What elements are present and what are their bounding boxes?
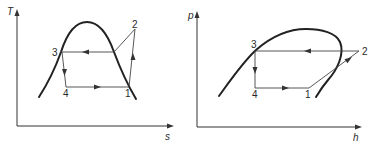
ph-arrow-down-icon <box>253 67 258 74</box>
ts-arrow-right-icon <box>94 85 101 90</box>
ts-point-2-label: 2 <box>132 19 138 30</box>
ph-point-3-label: 3 <box>251 39 257 50</box>
ts-arrow-up-icon <box>131 53 136 60</box>
diagram-canvas: T s 3 2 1 4 p h <box>0 0 368 143</box>
ts-point-4-label: 4 <box>63 88 69 99</box>
ph-process-compression <box>309 51 359 88</box>
ph-point-4-label: 4 <box>252 89 258 100</box>
ph-arrow-right-icon <box>282 86 289 91</box>
ph-diagram: p h 3 2 1 4 <box>187 10 368 143</box>
ts-x-axis-label: s <box>165 131 170 142</box>
ph-x-axis-label: h <box>353 132 359 143</box>
ts-arrow-left-icon <box>82 50 89 55</box>
ph-point-1-label: 1 <box>305 89 311 100</box>
ts-x-axis-arrow-icon <box>167 124 174 129</box>
ph-point-2-label: 2 <box>362 46 368 57</box>
ph-y-axis-label: p <box>187 10 194 21</box>
ts-process-2-desuperheat <box>114 29 135 52</box>
ts-y-axis-label: T <box>7 6 14 17</box>
ph-arrow-up-right-icon <box>345 57 353 63</box>
ts-diagram: T s 3 2 1 4 <box>7 6 174 142</box>
ph-saturation-curve <box>219 29 342 97</box>
ph-arrow-left-icon <box>304 49 311 54</box>
ts-arrow-down-icon <box>62 69 67 76</box>
ph-y-axis-arrow-icon <box>195 11 200 18</box>
ts-point-1-label: 1 <box>125 88 131 99</box>
ts-point-3-label: 3 <box>52 47 58 58</box>
ts-y-axis-arrow-icon <box>15 9 20 16</box>
ph-x-axis-arrow-icon <box>355 125 362 130</box>
